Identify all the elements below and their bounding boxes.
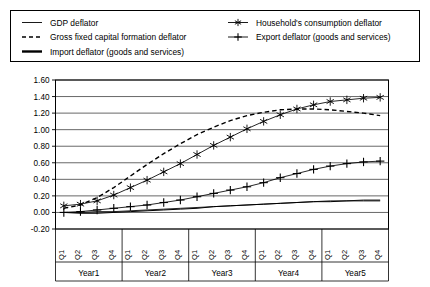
y-tick-label: 1.60 <box>34 76 50 85</box>
x-tick-label-quarter: Q3 <box>357 250 366 260</box>
y-tick-label: 0.80 <box>34 142 50 151</box>
x-group-label: Year4 <box>278 269 300 278</box>
x-group-label: Year5 <box>345 269 367 278</box>
x-tick-label-quarter: Q2 <box>273 250 282 260</box>
deflator-line-chart: GDP deflatorHousehold's consumption defl… <box>0 0 430 287</box>
y-tick-label: 0.00 <box>34 208 50 217</box>
legend-label-gfcf: Gross fixed capital formation deflator <box>50 32 187 42</box>
legend-label-household: Household's consumption deflator <box>256 18 382 28</box>
chart-canvas: GDP deflatorHousehold's consumption defl… <box>0 0 430 287</box>
x-tick-label-quarter: Q1 <box>257 250 266 260</box>
legend-label-import: Import deflator (goods and services) <box>50 47 184 57</box>
x-tick-label-quarter: Q3 <box>290 250 299 260</box>
y-tick-label: 0.20 <box>34 192 50 201</box>
legend-label-gdp: GDP deflator <box>50 18 98 28</box>
chart-legend: GDP deflatorHousehold's consumption defl… <box>11 11 420 62</box>
x-tick-label-quarter: Q4 <box>307 250 316 260</box>
x-tick-label-quarter: Q1 <box>190 250 199 260</box>
x-tick-label-quarter: Q1 <box>323 250 332 260</box>
x-tick-label-quarter: Q2 <box>73 250 82 260</box>
x-tick-label-quarter: Q4 <box>373 250 382 260</box>
x-tick-label-quarter: Q2 <box>140 250 149 260</box>
y-tick-label: 0.60 <box>34 159 50 168</box>
x-group-label: Year3 <box>211 269 233 278</box>
y-tick-label: 1.00 <box>34 126 50 135</box>
y-tick-label: 0.40 <box>34 175 50 184</box>
x-tick-label-quarter: Q1 <box>123 250 132 260</box>
legend-label-export: Export deflator (goods and services) <box>256 32 391 42</box>
x-tick-label-quarter: Q3 <box>90 250 99 260</box>
x-tick-label-quarter: Q4 <box>107 250 116 260</box>
x-group-label: Year1 <box>78 269 100 278</box>
x-group-label: Year2 <box>145 269 167 278</box>
x-tick-label-quarter: Q4 <box>173 250 182 260</box>
y-tick-label: 1.20 <box>34 109 50 118</box>
x-tick-label-quarter: Q3 <box>157 250 166 260</box>
y-tick-label: -0.20 <box>31 225 50 234</box>
x-tick-label-quarter: Q1 <box>57 250 66 260</box>
y-tick-label: 1.40 <box>34 93 50 102</box>
x-tick-label-quarter: Q2 <box>207 250 216 260</box>
x-tick-label-quarter: Q3 <box>223 250 232 260</box>
x-tick-label-quarter: Q2 <box>340 250 349 260</box>
x-tick-label-quarter: Q4 <box>240 250 249 260</box>
